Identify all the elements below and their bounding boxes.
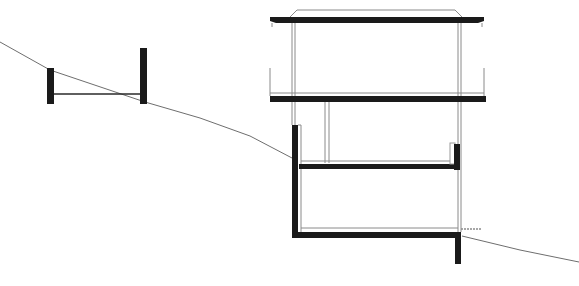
lower-slab [292, 232, 461, 238]
right-footing [455, 232, 461, 264]
retaining-wall [292, 125, 298, 238]
right-stub-wall [454, 144, 460, 170]
upper-slab [270, 96, 486, 102]
ground-line-right [462, 236, 579, 262]
section-canvas [0, 0, 579, 286]
left-structure [47, 48, 147, 104]
right-post [140, 48, 147, 104]
section-drawing [0, 0, 579, 286]
roof-parapet [290, 10, 462, 17]
mid-slab [299, 164, 455, 169]
building-section [270, 10, 486, 264]
left-post [47, 68, 54, 104]
roof-slab [270, 17, 484, 23]
